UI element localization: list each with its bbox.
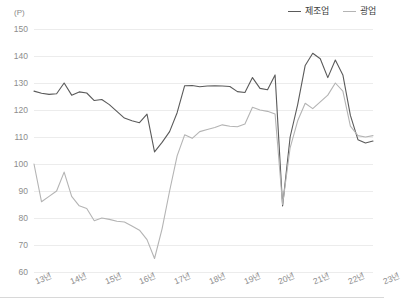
y-axis-tick-label: 70: [2, 241, 28, 250]
x-axis-tick-label: 21년: [312, 271, 331, 285]
y-axis-tick-label: 100: [2, 160, 28, 169]
y-axis-tick-label: 90: [2, 187, 28, 196]
legend-item-manufacturing[interactable]: 제조업: [288, 7, 329, 16]
legend-swatch-mining: [343, 11, 356, 12]
x-axis-tick-label: 17년: [173, 271, 192, 285]
legend-label-manufacturing: 제조업: [305, 7, 329, 16]
y-axis-tick-label: 120: [2, 106, 28, 115]
legend-label-mining: 광업: [360, 7, 376, 16]
x-axis-tick-label: 19년: [243, 271, 262, 285]
x-axis-tick-label: 20년: [277, 271, 296, 285]
y-axis-tick-label: 140: [2, 52, 28, 61]
x-axis-tick-label: 16년: [138, 271, 157, 285]
chart-legend: 제조업 광업: [288, 3, 376, 19]
footer-divider: [0, 297, 384, 298]
y-axis-tick-label: 60: [2, 268, 28, 277]
series-lines: [34, 29, 373, 272]
x-axis-tick-label: 18년: [208, 271, 227, 285]
y-axis-tick-label: 110: [2, 133, 28, 142]
series-line-mining: [34, 83, 373, 259]
x-axis-tick-label: 15년: [104, 271, 123, 285]
y-axis-unit-label: (P): [14, 9, 25, 17]
plot-area: 15014013012011010090807060 13년14년15년16년1…: [34, 29, 373, 272]
x-axis-tick-label: 13년: [34, 271, 53, 285]
x-axis-tick-label: 23년: [382, 271, 401, 285]
y-axis-tick-label: 80: [2, 214, 28, 223]
y-axis-tick-label: 150: [2, 25, 28, 34]
x-axis-tick-label: 22년: [347, 271, 366, 285]
x-axis-tick-label: 14년: [69, 271, 88, 285]
y-axis-tick-label: 130: [2, 79, 28, 88]
series-line-manufacturing: [34, 53, 373, 206]
legend-swatch-manufacturing: [288, 11, 301, 12]
legend-item-mining[interactable]: 광업: [343, 7, 376, 16]
